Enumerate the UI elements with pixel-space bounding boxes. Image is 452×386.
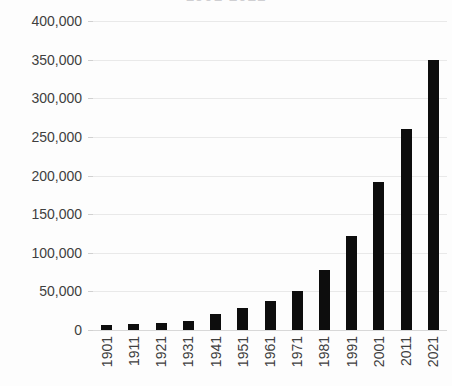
x-tick-label-1991: 1991: [344, 336, 360, 367]
x-tick-label-2021: 2021: [425, 336, 441, 367]
bar-1981[interactable]: [319, 270, 330, 330]
bar-2011[interactable]: [401, 129, 412, 330]
bar-1971[interactable]: [292, 291, 303, 330]
y-tick-mark: [88, 137, 93, 138]
y-tick-mark: [88, 330, 93, 331]
x-label-slot: 2021: [420, 334, 447, 386]
y-tick-label: 400,000: [0, 13, 82, 29]
bar-series: [93, 21, 447, 330]
y-tick-mark: [88, 21, 93, 22]
x-label-slot: 1941: [202, 334, 229, 386]
y-tick-label: 300,000: [0, 90, 82, 106]
x-tick-label-1961: 1961: [262, 336, 278, 367]
bar-1931[interactable]: [183, 321, 194, 330]
bar-1941[interactable]: [210, 314, 221, 330]
bar-1951[interactable]: [237, 308, 248, 330]
bar-slot: [284, 21, 311, 330]
bar-1911[interactable]: [128, 324, 139, 330]
bar-2021[interactable]: [428, 60, 439, 330]
bar-slot: [93, 21, 120, 330]
bar-slot: [393, 21, 420, 330]
bar-2001[interactable]: [373, 182, 384, 330]
x-label-slot: 1921: [147, 334, 174, 386]
bar-1961[interactable]: [265, 301, 276, 330]
x-label-slot: 1911: [120, 334, 147, 386]
y-tick-label: 100,000: [0, 245, 82, 261]
x-tick-label-1951: 1951: [235, 336, 251, 367]
y-tick-mark: [88, 60, 93, 61]
bar-slot: [229, 21, 256, 330]
x-label-slot: 1981: [311, 334, 338, 386]
x-tick-label-1941: 1941: [208, 336, 224, 367]
x-tick-label-2011: 2011: [398, 336, 414, 366]
x-label-slot: 1991: [338, 334, 365, 386]
bar-slot: [420, 21, 447, 330]
y-tick-label: 0: [0, 322, 82, 338]
x-label-slot: 2011: [393, 334, 420, 386]
x-tick-label-1981: 1981: [316, 336, 332, 367]
y-tick-label: 150,000: [0, 206, 82, 222]
x-tick-label-1901: 1901: [99, 336, 115, 367]
y-tick-mark: [88, 214, 93, 215]
bar-slot: [311, 21, 338, 330]
y-tick-mark: [88, 98, 93, 99]
bar-slot: [120, 21, 147, 330]
x-label-slot: 2001: [365, 334, 392, 386]
bar-1921[interactable]: [156, 323, 167, 330]
bar-slot: [147, 21, 174, 330]
x-label-slot: 1961: [256, 334, 283, 386]
y-tick-mark: [88, 253, 93, 254]
y-tick-label: 350,000: [0, 52, 82, 68]
x-label-slot: 1931: [175, 334, 202, 386]
bar-1901[interactable]: [101, 325, 112, 330]
y-tick-label: 50,000: [0, 283, 82, 299]
y-tick-label: 200,000: [0, 168, 82, 184]
x-tick-label-1921: 1921: [153, 336, 169, 367]
x-tick-label-1931: 1931: [180, 336, 196, 367]
x-tick-label-2001: 2001: [371, 336, 387, 367]
y-tick-label: 250,000: [0, 129, 82, 145]
bar-slot: [338, 21, 365, 330]
plot-area: [93, 21, 447, 330]
x-tick-label-1971: 1971: [289, 336, 305, 367]
x-tick-label-1911: 1911: [126, 336, 142, 366]
x-label-slot: 1971: [284, 334, 311, 386]
y-tick-mark: [88, 176, 93, 177]
axis-baseline: [93, 330, 447, 331]
bar-slot: [175, 21, 202, 330]
y-tick-mark: [88, 291, 93, 292]
bar-slot: [365, 21, 392, 330]
y-axis-labels: 400,000350,000300,000250,000200,000150,0…: [0, 0, 82, 386]
x-label-slot: 1951: [229, 334, 256, 386]
bar-slot: [256, 21, 283, 330]
x-label-slot: 1901: [93, 334, 120, 386]
bar-chart: 1901-2021 400,000350,000300,000250,00020…: [0, 0, 452, 386]
bar-slot: [202, 21, 229, 330]
x-axis-labels: 1901191119211931194119511961197119811991…: [93, 334, 447, 386]
bar-1991[interactable]: [346, 236, 357, 330]
